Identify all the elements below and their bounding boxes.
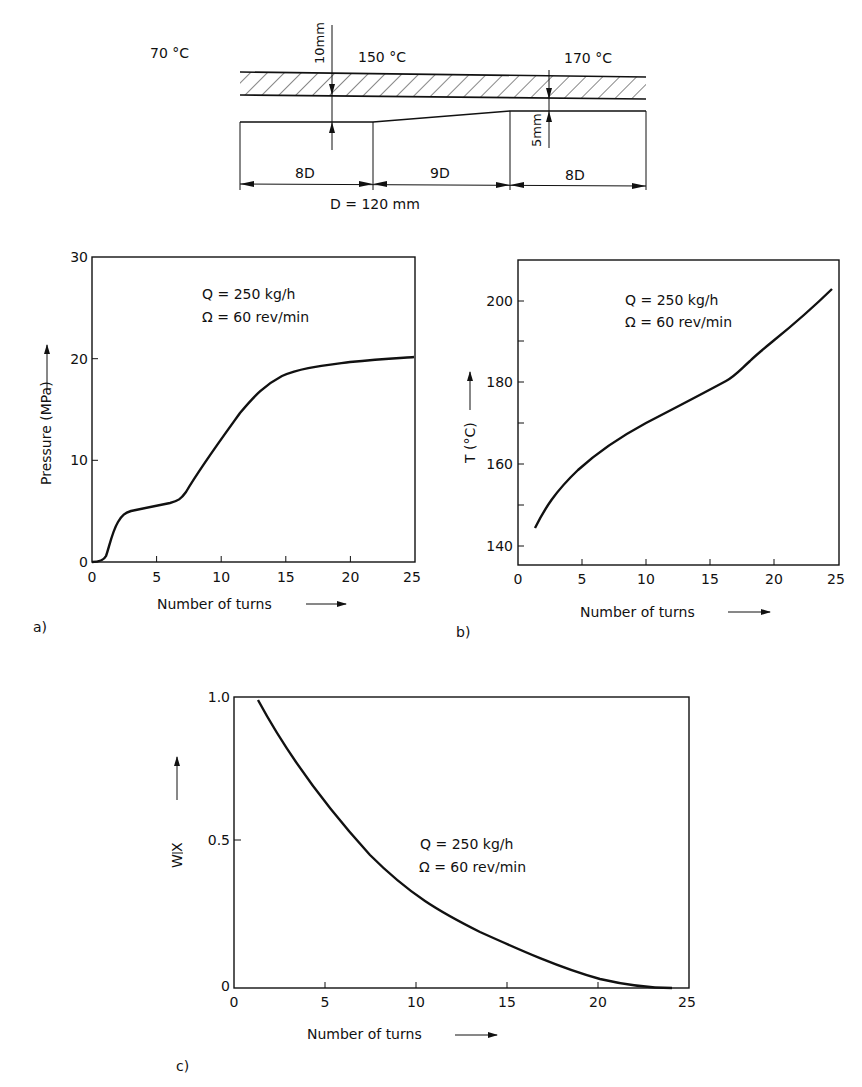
temp-zone-3: 170 °C	[564, 50, 612, 66]
svg-text:5: 5	[152, 569, 161, 585]
x-axis-label: Number of turns	[157, 596, 272, 612]
svg-text:25: 25	[827, 571, 845, 587]
x-ticks: 0 5 10 15 20 25	[230, 994, 696, 1010]
annotation-omega: Ω = 60 rev/min	[419, 859, 526, 875]
svg-text:5: 5	[321, 994, 330, 1010]
svg-text:20: 20	[765, 571, 783, 587]
svg-text:180: 180	[486, 374, 513, 390]
svg-text:0: 0	[230, 994, 239, 1010]
chart-xw: 0 5 10 15 20 25 0 0.5 1.0 Q = 250 kg/h Ω…	[169, 689, 696, 1074]
y-axis-label: W X	[169, 757, 185, 870]
svg-text:0: 0	[88, 569, 97, 585]
svg-text:10: 10	[70, 452, 88, 468]
svg-text:0: 0	[514, 571, 523, 587]
chart-temperature: 0 5 10 15 20 25 140 160 180 200 Q = 250 …	[456, 260, 845, 640]
svg-text:10: 10	[212, 569, 230, 585]
x-ticks: 0 5 10 15 20 25	[514, 571, 845, 587]
figure: 70 °C 150 °C 170 °C 10mm 5mm 8D 9D	[0, 0, 862, 1087]
annotation-q: Q = 250 kg/h	[625, 292, 718, 308]
extruder-schematic: 70 °C 150 °C 170 °C 10mm 5mm 8D 9D	[150, 22, 646, 212]
svg-text:30: 30	[70, 249, 88, 265]
section-label-3: 8D	[565, 167, 585, 183]
svg-text:15: 15	[701, 571, 719, 587]
svg-text:15: 15	[498, 994, 516, 1010]
x-axis-label: Number of turns	[580, 604, 695, 620]
x-ticks: 0 5 10 15 20 25	[88, 569, 421, 585]
temp-zone-2: 150 °C	[358, 49, 406, 65]
svg-text:0: 0	[221, 978, 230, 994]
annotation-q: Q = 250 kg/h	[420, 836, 513, 852]
svg-text:20: 20	[589, 994, 607, 1010]
svg-text:X: X	[169, 842, 185, 852]
section-label-1: 8D	[295, 165, 315, 181]
svg-text:20: 20	[341, 569, 359, 585]
svg-text:200: 200	[486, 293, 513, 309]
svg-text:10: 10	[637, 571, 655, 587]
temp-zone-1: 70 °C	[150, 45, 189, 61]
annotation-omega: Ω = 60 rev/min	[202, 309, 309, 325]
svg-text:0.5: 0.5	[208, 832, 230, 848]
x-axis-label: Number of turns	[307, 1026, 422, 1042]
svg-text:W: W	[169, 854, 185, 868]
annotation-q: Q = 250 kg/h	[202, 286, 295, 302]
svg-text:25: 25	[403, 569, 421, 585]
screw-profile	[240, 111, 646, 122]
svg-text:0: 0	[79, 554, 88, 570]
annotation-omega: Ω = 60 rev/min	[625, 314, 732, 330]
panel-label-c: c)	[176, 1058, 189, 1074]
y-ticks: 140 160 180 200	[486, 293, 513, 554]
svg-text:25: 25	[678, 994, 696, 1010]
svg-text:20: 20	[70, 351, 88, 367]
svg-text:140: 140	[486, 538, 513, 554]
diameter-label: D = 120 mm	[330, 196, 420, 212]
chart-pressure: 0 5 10 15 20 25 0 10 20 30 Q = 250 kg/h …	[33, 249, 421, 635]
pressure-curve	[92, 357, 414, 562]
y-ticks: 0 10 20 30	[70, 249, 88, 570]
panel-label-b: b)	[456, 624, 470, 640]
y-axis-label: Pressure (MPa)	[38, 381, 54, 485]
svg-text:5: 5	[578, 571, 587, 587]
dim-5mm: 5mm	[529, 113, 544, 147]
svg-text:1.0: 1.0	[208, 689, 230, 705]
section-label-2: 9D	[430, 165, 450, 181]
svg-text:10: 10	[407, 994, 425, 1010]
y-axis-label: T (°C)	[462, 422, 478, 464]
svg-text:15: 15	[277, 569, 295, 585]
panel-label-a: a)	[33, 619, 47, 635]
svg-text:160: 160	[486, 456, 513, 472]
y-ticks: 0 0.5 1.0	[208, 689, 230, 994]
plot-frame	[92, 257, 415, 562]
dim-10mm: 10mm	[312, 22, 327, 64]
